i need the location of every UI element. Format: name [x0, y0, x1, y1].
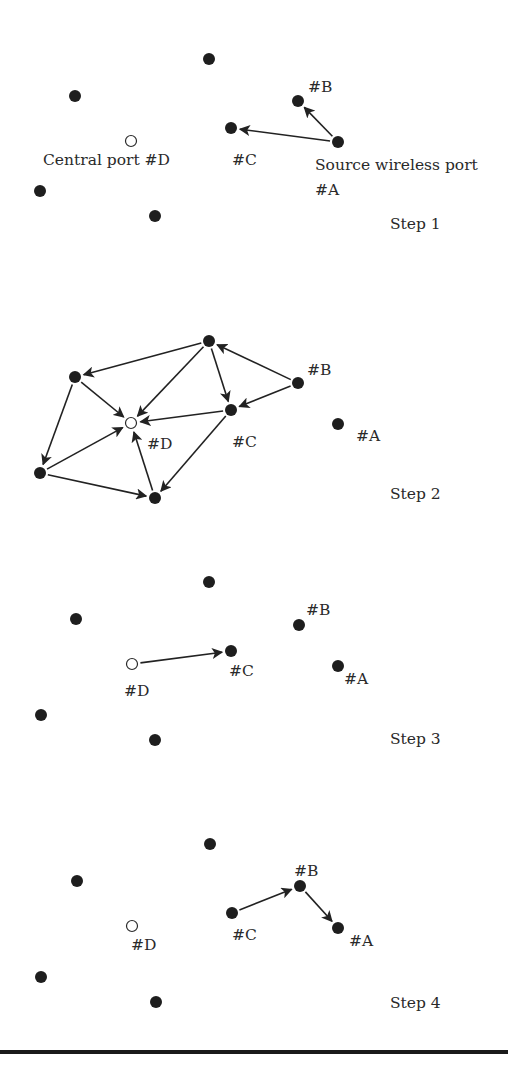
routing-diagram: #BCentral port #D#CSource wireless port#…: [0, 0, 508, 1066]
node-label: #B: [308, 78, 332, 96]
node-B-icon: [294, 880, 306, 892]
node-label: #A: [344, 670, 369, 688]
node-B-icon: [292, 377, 304, 389]
node-bottom-icon: [149, 492, 161, 504]
node-label: #C: [229, 662, 254, 680]
node-bottom-icon: [149, 210, 161, 222]
node-label: #B: [294, 862, 318, 880]
node-C-icon: [225, 645, 237, 657]
arrow-B-to-top: [217, 345, 291, 380]
node-D-icon: [127, 921, 138, 932]
arrow-B-to-C: [239, 386, 290, 407]
node-C-icon: [226, 907, 238, 919]
node-top-icon: [203, 576, 215, 588]
arrow-A-to-B: [304, 107, 332, 136]
arrow-C-to-B: [239, 889, 291, 910]
arrow-D-to-C: [140, 652, 222, 663]
node-label: #B: [306, 601, 330, 619]
node-label: #B: [307, 361, 331, 379]
step-3-panel: #B#D#C#AStep 3: [35, 576, 441, 748]
node-label: #A: [315, 181, 340, 199]
node-bottom-icon: [149, 734, 161, 746]
step-label: Step 3: [390, 730, 441, 748]
arrow-C-to-bottom: [161, 416, 226, 491]
node-B-icon: [292, 95, 304, 107]
arrow-A-to-C: [240, 129, 330, 141]
arrow-lower-left-to-bottom: [48, 475, 146, 496]
step-2-panel: #B#D#C#AStep 2: [34, 335, 441, 504]
node-label: #D: [131, 936, 156, 954]
node-label: #D: [147, 435, 172, 453]
arrow-top-to-C: [211, 349, 228, 402]
node-A-icon: [332, 922, 344, 934]
arrow-top-to-upper-left: [84, 343, 202, 375]
node-bottom-icon: [150, 996, 162, 1008]
node-lower-left-icon: [34, 467, 46, 479]
node-label: #D: [124, 682, 149, 700]
node-label: #C: [232, 151, 257, 169]
arrow-upper-left-to-lower-left: [43, 385, 72, 465]
node-B-icon: [293, 619, 305, 631]
node-lower-left-icon: [35, 971, 47, 983]
node-label: Central port #D: [43, 151, 170, 169]
node-A-icon: [332, 660, 344, 672]
arrow-lower-left-to-D: [47, 428, 123, 470]
steps-layer: #BCentral port #D#CSource wireless port#…: [34, 53, 479, 1012]
step-4-panel: #B#D#C#AStep 4: [35, 838, 441, 1012]
step-1-panel: #BCentral port #D#CSource wireless port#…: [34, 53, 479, 233]
node-lower-left-icon: [35, 709, 47, 721]
node-A-icon: [332, 418, 344, 430]
arrow-C-to-D: [140, 411, 223, 422]
node-label: Source wireless port: [315, 156, 479, 174]
arrow-upper-left-to-D: [81, 382, 124, 417]
bottom-rule: [0, 1050, 508, 1054]
node-lower-left-icon: [34, 185, 46, 197]
node-top-icon: [203, 335, 215, 347]
node-D-icon: [126, 418, 137, 429]
node-top-icon: [203, 53, 215, 65]
node-upper-left-icon: [69, 90, 81, 102]
step-label: Step 2: [390, 485, 441, 503]
step-label: Step 4: [390, 994, 441, 1012]
node-A-icon: [332, 136, 344, 148]
node-label: #C: [232, 926, 257, 944]
node-upper-left-icon: [70, 613, 82, 625]
arrow-B-to-A: [305, 892, 332, 921]
node-C-icon: [225, 122, 237, 134]
node-upper-left-icon: [71, 875, 83, 887]
node-top-icon: [204, 838, 216, 850]
node-C-icon: [225, 404, 237, 416]
node-label: #C: [232, 433, 257, 451]
node-label: #A: [356, 427, 381, 445]
node-D-icon: [126, 136, 137, 147]
node-upper-left-icon: [69, 371, 81, 383]
node-D-icon: [127, 659, 138, 670]
step-label: Step 1: [390, 215, 441, 233]
node-label: #A: [349, 932, 374, 950]
